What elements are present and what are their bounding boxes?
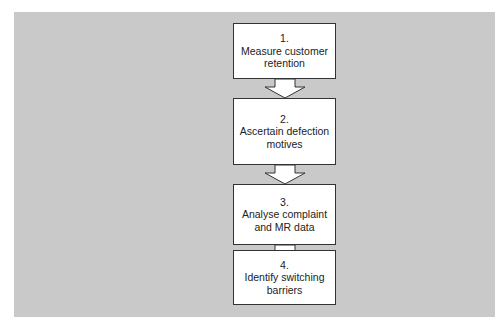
step-label: Analyse complaint and MR data xyxy=(238,208,331,233)
step-box-2: 2. Ascertain defection motives xyxy=(233,98,336,165)
step-label: Ascertain defection motives xyxy=(238,125,331,150)
step-box-4: 4. Identify switching barriers xyxy=(233,250,336,305)
step-number: 3. xyxy=(238,196,331,209)
down-arrow-icon xyxy=(259,165,311,185)
step-label: Measure customer retention xyxy=(238,45,331,70)
step-number: 2. xyxy=(238,113,331,126)
step-box-3: 3. Analyse complaint and MR data xyxy=(233,184,336,245)
step-label: Identify switching barriers xyxy=(238,271,331,296)
down-arrow-icon xyxy=(259,79,311,99)
step-box-1: 1. Measure customer retention xyxy=(233,23,336,79)
step-number: 4. xyxy=(238,259,331,272)
step-number: 1. xyxy=(238,32,331,45)
